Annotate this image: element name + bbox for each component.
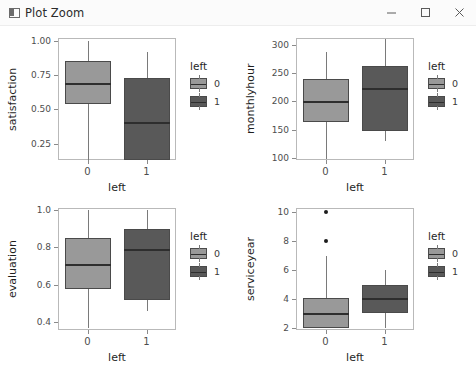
x-axis-tickmark <box>385 330 386 334</box>
legend-key-swatch <box>190 266 207 277</box>
y-axis-tickmark <box>54 75 58 76</box>
x-axis-tick-label: 1 <box>143 166 149 177</box>
window-icon <box>9 8 20 18</box>
y-axis-tickmark <box>292 158 296 159</box>
x-axis-label: left <box>296 351 414 364</box>
x-axis-tick-label: 0 <box>322 336 328 347</box>
x-axis-tickmark <box>88 160 89 164</box>
boxplot-outlier <box>324 239 328 243</box>
y-axis-tickmark <box>292 241 296 242</box>
x-axis-tick-label: 1 <box>143 336 149 347</box>
x-axis-label: left <box>58 351 176 364</box>
facet-evaluation: 0.40.60.81.0evaluation01leftleft01 <box>0 196 238 366</box>
legend-title: left <box>428 60 458 72</box>
legend-item[interactable]: 1 <box>428 96 458 107</box>
legend-item[interactable]: 0 <box>428 248 458 259</box>
legend-title: left <box>190 230 220 242</box>
legend-item[interactable]: 0 <box>190 248 220 259</box>
y-axis-tickmark <box>54 109 58 110</box>
y-axis-tickmark <box>292 212 296 213</box>
legend-label: 0 <box>452 248 458 259</box>
boxplot-median <box>124 249 170 251</box>
legend: left01 <box>190 60 220 114</box>
x-axis-tickmark <box>147 160 148 164</box>
x-axis-tick-label: 0 <box>84 336 90 347</box>
y-axis-label: serviceyear <box>244 208 257 330</box>
x-axis-tickmark <box>88 330 89 334</box>
legend-key-swatch <box>428 266 445 277</box>
legend-item[interactable]: 0 <box>190 78 220 89</box>
legend-label: 1 <box>214 96 220 107</box>
legend-label: 1 <box>452 96 458 107</box>
legend-key-swatch <box>190 96 207 107</box>
legend-item[interactable]: 0 <box>428 78 458 89</box>
legend: left01 <box>428 230 458 284</box>
x-axis-label: left <box>296 181 414 194</box>
facet-satisfaction: 0.250.500.751.00satisfaction01leftleft01 <box>0 26 238 196</box>
x-axis-tick-label: 1 <box>381 336 387 347</box>
y-axis-label: evaluation <box>6 208 19 330</box>
y-axis-tickmark <box>292 130 296 131</box>
legend-item[interactable]: 1 <box>190 96 220 107</box>
legend-title: left <box>190 60 220 72</box>
boxplot-median <box>362 88 408 90</box>
y-axis-tickmark <box>292 328 296 329</box>
x-axis-tickmark <box>385 160 386 164</box>
minimize-icon[interactable] <box>374 0 408 26</box>
legend: left01 <box>428 60 458 114</box>
legend-label: 0 <box>452 78 458 89</box>
legend-title: left <box>428 230 458 242</box>
facet-monthlyhour: 100150200250300monthlyhour01leftleft01 <box>238 26 476 196</box>
x-axis-tickmark <box>147 330 148 334</box>
x-axis-tickmark <box>326 160 327 164</box>
y-axis-tickmark <box>292 270 296 271</box>
legend-key-swatch <box>190 248 207 259</box>
y-axis-tickmark <box>292 101 296 102</box>
window-title: Plot Zoom <box>25 6 84 20</box>
y-axis-tickmark <box>54 210 58 211</box>
legend-label: 1 <box>214 266 220 277</box>
y-axis-tickmark <box>292 73 296 74</box>
legend-key-swatch <box>428 96 445 107</box>
y-axis-tickmark <box>54 247 58 248</box>
legend-item[interactable]: 1 <box>190 266 220 277</box>
facet-serviceyear: 246810serviceyear01leftleft01 <box>238 196 476 366</box>
boxplot-box <box>124 78 170 160</box>
boxplot-median <box>124 122 170 124</box>
maximize-icon[interactable] <box>408 0 442 26</box>
legend-item[interactable]: 1 <box>428 266 458 277</box>
y-axis-tickmark <box>54 41 58 42</box>
legend-label: 0 <box>214 248 220 259</box>
close-icon[interactable] <box>442 0 476 26</box>
boxplot-outlier <box>324 210 328 214</box>
boxplot-median <box>303 313 349 315</box>
y-axis-label: monthlyhour <box>244 38 257 160</box>
window-controls <box>374 0 476 25</box>
legend: left01 <box>190 230 220 284</box>
boxplot-median <box>362 298 408 300</box>
legend-key-swatch <box>428 248 445 259</box>
legend-key-swatch <box>428 78 445 89</box>
y-axis-tickmark <box>54 322 58 323</box>
legend-label: 1 <box>452 266 458 277</box>
x-axis-label: left <box>58 181 176 194</box>
boxplot-box <box>124 229 170 300</box>
boxplot-median <box>65 264 111 266</box>
x-axis-tickmark <box>326 330 327 334</box>
y-axis-tickmark <box>54 285 58 286</box>
legend-label: 0 <box>214 78 220 89</box>
window-titlebar: Plot Zoom <box>0 0 476 26</box>
boxplot-box <box>362 66 408 132</box>
y-axis-tickmark <box>292 299 296 300</box>
x-axis-tick-label: 0 <box>322 166 328 177</box>
y-axis-label: satisfaction <box>6 38 19 160</box>
legend-key-swatch <box>190 78 207 89</box>
boxplot-median <box>65 83 111 85</box>
y-axis-tickmark <box>292 45 296 46</box>
x-axis-tick-label: 1 <box>381 166 387 177</box>
x-axis-tick-label: 0 <box>84 166 90 177</box>
boxplot-median <box>303 101 349 103</box>
plot-canvas: 0.250.500.751.00satisfaction01leftleft01… <box>0 26 476 366</box>
y-axis-tickmark <box>54 144 58 145</box>
